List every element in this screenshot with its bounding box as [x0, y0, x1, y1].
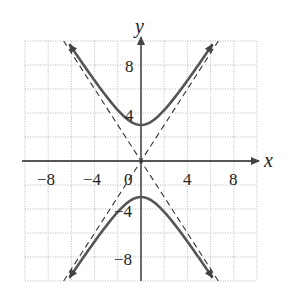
hyperbola-lower-right — [141, 197, 213, 278]
y-tick-m8: −8 — [114, 250, 132, 269]
hyperbola-upper-right — [141, 44, 213, 125]
x-tick-m8: −8 — [37, 170, 55, 189]
x-tick-4: 4 — [183, 170, 192, 189]
hyperbola-graph: −8 −4 0 4 8 8 4 −4 −8 x y — [0, 0, 296, 291]
y-tick-m4: −4 — [114, 202, 133, 221]
x-tick-8: 8 — [229, 170, 238, 189]
y-tick-8: 8 — [125, 57, 134, 76]
x-axis-label: x — [263, 149, 273, 171]
x-tick-m4: −4 — [83, 170, 102, 189]
x-tick-0: 0 — [124, 170, 133, 189]
y-axis-label: y — [133, 15, 144, 38]
y-tick-4: 4 — [125, 106, 134, 125]
